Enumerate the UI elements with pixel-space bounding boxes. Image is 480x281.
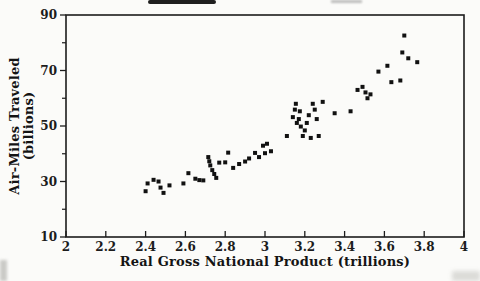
scatter-point bbox=[167, 183, 171, 187]
scatter-point bbox=[311, 102, 315, 106]
x-axis-title: Real Gross National Product (trillions) bbox=[120, 254, 410, 269]
x-axis-tick-label: 2.6 bbox=[175, 240, 196, 254]
y-axis-tick-label: 90 bbox=[40, 8, 57, 22]
scatter-point bbox=[402, 34, 406, 38]
scatter-point bbox=[297, 117, 301, 121]
scatter-point bbox=[303, 128, 307, 132]
scatter-point bbox=[361, 85, 365, 89]
scatter-point bbox=[299, 125, 303, 129]
x-axis-tick-label: 3.4 bbox=[334, 240, 355, 254]
x-axis-tick-label: 3.6 bbox=[374, 240, 395, 254]
scatter-point bbox=[317, 134, 321, 138]
x-axis-tick-label: 4 bbox=[460, 240, 468, 254]
scatter-point bbox=[206, 155, 210, 159]
x-axis-tick-label: 2.8 bbox=[215, 240, 236, 254]
scatter-point bbox=[146, 181, 150, 185]
scatter-point bbox=[144, 189, 148, 193]
scatter-point bbox=[253, 151, 257, 155]
scatter-point bbox=[309, 136, 313, 140]
scatter-point bbox=[212, 172, 216, 176]
scatter-point bbox=[400, 50, 404, 54]
scatter-point bbox=[197, 178, 201, 182]
scatter-point bbox=[210, 168, 214, 172]
scatter-point bbox=[406, 56, 410, 60]
x-axis-tick-label: 3 bbox=[261, 240, 269, 254]
scatter-point bbox=[243, 160, 247, 164]
scatter-point bbox=[159, 186, 163, 190]
scatter-point bbox=[162, 191, 166, 195]
scatter-point bbox=[247, 156, 251, 160]
scatter-point bbox=[298, 109, 302, 113]
scatter-point bbox=[385, 64, 389, 68]
y-axis-title-line2: (billions) bbox=[21, 92, 36, 161]
x-axis-tick-label: 2.2 bbox=[95, 240, 116, 254]
x-axis-tick-label: 2 bbox=[62, 240, 70, 254]
scatter-point bbox=[368, 92, 372, 96]
scatter-point bbox=[365, 96, 369, 100]
scatter-point bbox=[294, 102, 298, 106]
x-axis-tick-label: 2.4 bbox=[135, 240, 156, 254]
y-axis-tick-label: 10 bbox=[40, 230, 57, 244]
scatter-point bbox=[207, 159, 211, 163]
scatter-point bbox=[261, 144, 265, 148]
x-axis-tick-label: 3.8 bbox=[414, 240, 435, 254]
scatterplot-figure: 22.22.42.62.833.23.43.63.841030507090 Ai… bbox=[0, 0, 480, 281]
scatter-chart: 22.22.42.62.833.23.43.63.841030507090 Ai… bbox=[0, 0, 480, 281]
scatter-point bbox=[214, 176, 218, 180]
scatter-point bbox=[295, 121, 299, 125]
scatter-point bbox=[269, 149, 273, 153]
scatter-point bbox=[307, 113, 311, 117]
plot-border bbox=[66, 15, 464, 237]
scatter-point bbox=[217, 161, 221, 165]
scatter-point bbox=[315, 117, 319, 121]
scatter-point bbox=[285, 134, 289, 138]
scatter-point bbox=[181, 181, 185, 185]
scatter-point bbox=[321, 100, 325, 104]
scatter-point bbox=[152, 178, 156, 182]
scatter-point bbox=[201, 178, 205, 182]
scatter-point bbox=[263, 151, 267, 155]
y-axis-title-line1: Air-Miles Traveled bbox=[7, 57, 22, 195]
scatter-point bbox=[231, 166, 235, 170]
scatter-point bbox=[223, 160, 227, 164]
scatter-point bbox=[301, 134, 305, 138]
scatter-point bbox=[293, 108, 297, 112]
scatter-point bbox=[356, 88, 360, 92]
scatter-point bbox=[313, 108, 317, 112]
scatter-point bbox=[349, 109, 353, 113]
scatter-point bbox=[257, 155, 261, 159]
y-axis-tick-label: 70 bbox=[40, 64, 57, 78]
scatter-point bbox=[265, 142, 269, 146]
scatter-point bbox=[226, 151, 230, 155]
scatter-point bbox=[193, 177, 197, 181]
scatter-point bbox=[291, 115, 295, 119]
scatter-point bbox=[398, 78, 402, 82]
scatter-point bbox=[208, 163, 212, 167]
scatter-point bbox=[237, 162, 241, 166]
chart-plot-area: 22.22.42.62.833.23.43.63.841030507090 bbox=[40, 8, 468, 254]
scatter-point bbox=[333, 111, 337, 115]
scatter-point bbox=[389, 80, 393, 84]
scatter-point bbox=[363, 90, 367, 94]
scatter-point bbox=[305, 121, 309, 125]
scatter-point bbox=[376, 70, 380, 74]
y-axis-tick-label: 30 bbox=[40, 175, 57, 189]
x-axis-tick-label: 3.2 bbox=[294, 240, 315, 254]
y-axis-tick-label: 50 bbox=[40, 119, 57, 133]
scatter-point bbox=[186, 171, 190, 175]
scatter-point bbox=[415, 60, 419, 64]
scatter-point bbox=[157, 180, 161, 184]
